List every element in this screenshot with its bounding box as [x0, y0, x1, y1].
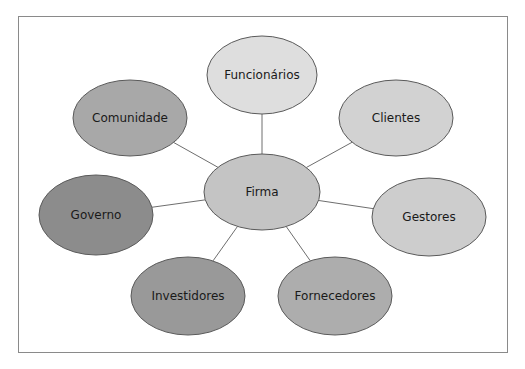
node-investidores: Investidores: [131, 257, 245, 335]
node-label: Comunidade: [92, 111, 168, 125]
nodes: FuncionáriosClientesGestoresFornecedores…: [39, 36, 486, 335]
edge-firma-gestores: [319, 200, 374, 208]
node-comunidade: Comunidade: [73, 80, 187, 156]
node-label: Gestores: [402, 210, 455, 224]
node-fornecedores: Fornecedores: [278, 257, 392, 335]
node-funcionarios: Funcionários: [207, 36, 317, 114]
node-label: Governo: [71, 208, 122, 222]
edge-firma-clientes: [306, 142, 352, 167]
node-clientes: Clientes: [339, 80, 453, 156]
edge-firma-governo: [152, 200, 205, 207]
node-gestores: Gestores: [372, 178, 486, 256]
node-label: Investidores: [151, 289, 224, 303]
stakeholder-diagram: FuncionáriosClientesGestoresFornecedores…: [0, 0, 525, 369]
node-label: Firma: [245, 185, 278, 199]
node-label: Funcionários: [224, 68, 300, 82]
node-firma-center: Firma: [204, 154, 320, 230]
node-governo: Governo: [39, 175, 153, 255]
edge-firma-investidores: [213, 226, 238, 260]
node-label: Clientes: [372, 111, 420, 125]
node-label: Fornecedores: [295, 289, 376, 303]
edge-firma-fornecedores: [286, 227, 310, 261]
edge-firma-comunidade: [174, 142, 218, 167]
